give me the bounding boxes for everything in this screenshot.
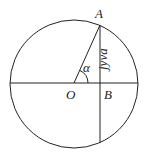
label-b: B bbox=[104, 87, 112, 102]
label-a: A bbox=[94, 6, 103, 21]
circle bbox=[10, 20, 138, 148]
circle-diagram: A O B α jyva bbox=[0, 0, 144, 157]
label-alpha: α bbox=[83, 60, 91, 75]
label-jyva: jyva bbox=[95, 48, 110, 72]
label-o: O bbox=[66, 87, 76, 102]
